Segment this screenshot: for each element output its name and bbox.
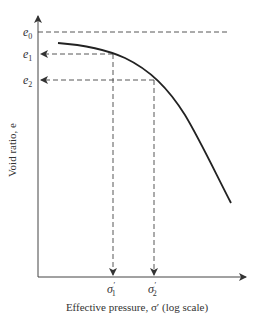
sigma1-label: σ′1 [107,281,116,298]
e0-label: e0 [23,25,32,41]
e2-label: e2 [23,73,32,89]
sigma2-label: σ′2 [148,281,157,298]
y-axis-title: Void ratio, e [6,123,18,177]
e-log-p-diagram: e0 e1 e2 σ′1 σ′2 Void ratio, e Effective… [0,0,261,320]
e1-label: e1 [23,47,32,63]
consolidation-curve [58,43,231,203]
x-axis-title: Effective pressure, σ′ (log scale) [66,301,209,314]
